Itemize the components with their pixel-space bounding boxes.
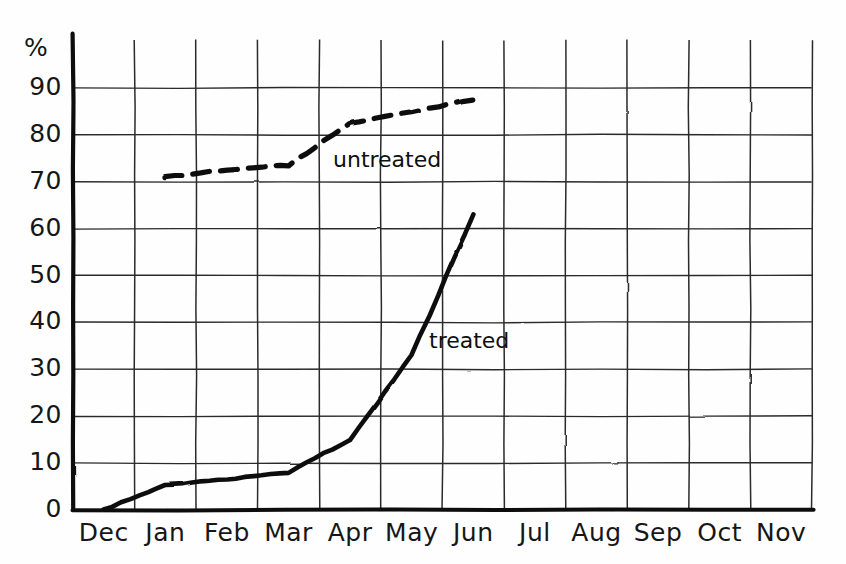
gridline-vertical <box>504 40 505 510</box>
y-axis-tick-label: 90 <box>0 72 75 101</box>
series-line-treated <box>104 214 474 509</box>
y-axis-tick-label: 20 <box>0 400 75 429</box>
hand-drawn-line-chart: % 0102030405060708090DecJanFebMarAprMayJ… <box>0 0 846 564</box>
y-axis-tick-label: 50 <box>0 260 75 289</box>
y-axis-unit-label: % <box>24 33 48 62</box>
gridline-vertical <box>319 40 320 511</box>
gridline-vertical <box>688 40 689 510</box>
y-axis-tick-label: 10 <box>0 447 75 476</box>
gridline-vertical <box>442 41 443 511</box>
y-axis-tick-label: 80 <box>0 119 75 148</box>
x-axis-line <box>73 510 814 511</box>
y-axis-tick-label: 60 <box>0 213 75 242</box>
x-axis-tick-label: Nov <box>736 518 826 547</box>
gridline-vertical <box>812 40 813 510</box>
gridline-vertical <box>257 40 258 510</box>
gridline-vertical <box>565 40 566 511</box>
y-axis-tick-label: 70 <box>0 166 75 195</box>
series-annotation-treated: treated <box>429 328 509 353</box>
y-axis-tick-label: 40 <box>0 306 75 335</box>
gridline-vertical <box>134 40 135 510</box>
gridline-vertical <box>627 40 628 511</box>
chart-canvas <box>0 0 846 564</box>
series-annotation-untreated: untreated <box>333 147 441 172</box>
y-axis-tick-label: 30 <box>0 353 75 382</box>
gridline-vertical <box>196 40 197 511</box>
gridline-vertical <box>380 40 381 511</box>
gridline-vertical <box>750 40 751 510</box>
